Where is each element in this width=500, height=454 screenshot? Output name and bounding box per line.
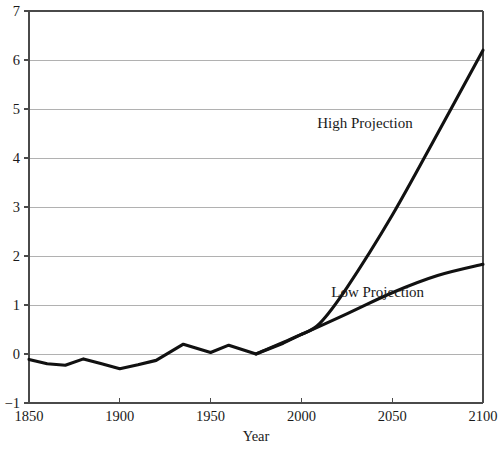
- y-tick-label-5: 5: [13, 101, 20, 117]
- y-axis-ticks: [24, 11, 29, 403]
- y-tick-label-0: 0: [13, 346, 20, 362]
- y-tick-label-4: 4: [13, 150, 21, 166]
- gridlines: [29, 60, 483, 354]
- x-axis-tick-labels: 185019001950200020502100: [15, 408, 498, 424]
- y-tick-label-7: 7: [13, 3, 20, 19]
- annotation-low-projection: Low Projection: [331, 284, 424, 300]
- y-axis-tick-labels: −101234567: [5, 3, 21, 411]
- series-line-low-projection: [256, 264, 483, 354]
- x-axis-ticks: [29, 398, 483, 403]
- x-tick-label-2000: 2000: [287, 408, 316, 424]
- x-tick-label-1900: 1900: [105, 408, 134, 424]
- chart-plot-area: 185019001950200020502100 −101234567 High…: [0, 0, 500, 454]
- climate-projection-chart: 185019001950200020502100 −101234567 High…: [0, 0, 500, 454]
- y-tick-label-6: 6: [13, 52, 20, 68]
- y-tick-label--1: −1: [5, 395, 20, 411]
- annotation-high-projection: High Projection: [317, 115, 413, 131]
- x-tick-label-2050: 2050: [378, 408, 407, 424]
- x-axis-title: Year: [243, 428, 270, 444]
- y-tick-label-1: 1: [13, 297, 20, 313]
- y-tick-label-2: 2: [13, 248, 20, 264]
- y-tick-label-3: 3: [13, 199, 20, 215]
- data-series: [29, 50, 483, 369]
- x-tick-label-2100: 2100: [469, 408, 498, 424]
- x-tick-label-1950: 1950: [196, 408, 225, 424]
